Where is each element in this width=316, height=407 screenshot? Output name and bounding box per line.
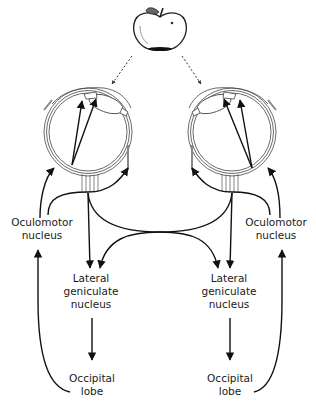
apple-icon: [134, 8, 187, 51]
oculomotor-nucleus-left-label: Oculomotor nucleus: [11, 216, 73, 242]
label-line: nucleus: [63, 298, 118, 311]
label-line: lobe: [69, 385, 115, 398]
label-line: Oculomotor: [245, 216, 307, 229]
label-line: Oculomotor: [11, 216, 73, 229]
left-eye-icon: [44, 88, 132, 192]
left-eye-pathway-arrows: [72, 99, 96, 165]
occipital-lobe-right-label: Occipital lobe: [207, 372, 253, 398]
visual-pathway-diagram: [0, 0, 316, 407]
label-line: nucleus: [245, 229, 307, 242]
lateral-geniculate-nucleus-right-label: Lateral geniculate nucleus: [201, 272, 256, 311]
oculomotor-nucleus-right-label: Oculomotor nucleus: [245, 216, 307, 242]
right-eye-pathway-arrows: [224, 99, 252, 168]
label-line: lobe: [207, 385, 253, 398]
label-line: Lateral: [63, 272, 118, 285]
label-line: geniculate: [63, 285, 118, 298]
label-line: Occipital: [207, 372, 253, 385]
label-line: Lateral: [201, 272, 256, 285]
label-line: nucleus: [11, 229, 73, 242]
right-eye-icon: [188, 88, 276, 192]
light-ray-arrows: [112, 56, 201, 84]
label-line: geniculate: [201, 285, 256, 298]
label-line: nucleus: [201, 298, 256, 311]
label-line: Occipital: [69, 372, 115, 385]
lateral-geniculate-nucleus-left-label: Lateral geniculate nucleus: [63, 272, 118, 311]
occipital-lobe-left-label: Occipital lobe: [69, 372, 115, 398]
